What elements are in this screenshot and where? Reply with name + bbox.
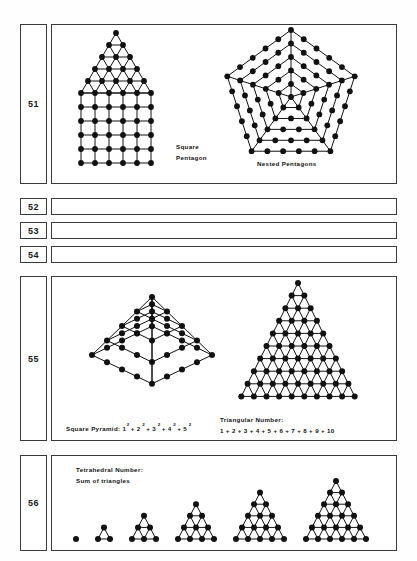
tetrahedral-caption-line2: Sum of triangles	[76, 477, 130, 484]
row-number-label: 52	[28, 202, 39, 212]
figure-panel-55: Square Pyramid: 12+ 22+ 32+ 42+ 52 Trian…	[51, 276, 397, 441]
square-pentagon-caption-line1: Square	[176, 143, 199, 150]
figure-sheet: 51 Square Pentagon Nested Pentagons 52 5…	[0, 0, 417, 561]
svg-text:2: 2	[127, 422, 130, 427]
row-number-label: 56	[28, 498, 39, 508]
row-number-label: 53	[28, 226, 39, 236]
svg-text:+ 2: + 2	[131, 425, 141, 432]
svg-text:2: 2	[189, 422, 192, 427]
nested-pentagons-caption: Nested Pentagons	[257, 160, 317, 167]
figure-panel-52	[51, 198, 397, 215]
square-pyramid-caption: Square Pyramid: 12+ 22+ 32+ 42+ 52	[66, 422, 192, 432]
svg-text:2: 2	[173, 422, 176, 427]
svg-text:2: 2	[158, 422, 161, 427]
row-number-box-55: 55	[20, 276, 47, 441]
svg-text:+ 4: + 4	[162, 425, 172, 432]
square-pyramid-figure	[89, 294, 215, 387]
figure-panel-53	[51, 222, 397, 239]
row-number-label: 51	[28, 99, 39, 109]
figure-panel-56: Tetrahedral Number: Sum of triangles	[51, 455, 397, 551]
tetrahedral-caption-line1: Tetrahedral Number:	[76, 466, 143, 473]
svg-text:+ 5: + 5	[177, 425, 187, 432]
row-number-box-53: 53	[20, 222, 47, 239]
triangular-number-figure	[238, 280, 357, 399]
triangle-series-figure	[73, 478, 369, 542]
row-number-label: 55	[28, 354, 39, 364]
figure-56-svg: Tetrahedral Number: Sum of triangles	[52, 456, 396, 550]
svg-text:+ 3: + 3	[146, 425, 156, 432]
row-number-box-56: 56	[20, 455, 47, 551]
square-pentagon-caption-line2: Pentagon	[176, 154, 207, 161]
row-number-box-54: 54	[20, 246, 47, 263]
figure-55-svg: Square Pyramid: 12+ 22+ 32+ 42+ 52 Trian…	[52, 277, 396, 440]
svg-text:Square Pyramid: 1: Square Pyramid: 1	[66, 425, 126, 432]
triangular-number-caption-line2: 1 + 2 + 3 + 4 + 5 + 6 + 7 + 8 + 9 + 10	[220, 427, 335, 434]
nested-pentagons-figure	[224, 27, 357, 154]
square-pentagon-figure	[78, 30, 154, 166]
figure-51-svg: Square Pentagon Nested Pentagons	[52, 25, 396, 183]
svg-text:2: 2	[142, 422, 145, 427]
row-number-box-52: 52	[20, 198, 47, 215]
figure-panel-51: Square Pentagon Nested Pentagons	[51, 24, 397, 184]
figure-panel-54	[51, 246, 397, 263]
row-number-box-51: 51	[20, 24, 47, 184]
row-number-label: 54	[28, 250, 39, 260]
triangular-number-caption-line1: Triangular Number:	[220, 416, 283, 423]
